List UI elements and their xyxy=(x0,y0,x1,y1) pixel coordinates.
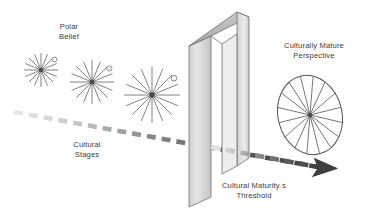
polar-belief-star-3 xyxy=(124,67,180,123)
label-polar-belief: Polar Belief xyxy=(40,22,98,41)
diagram-canvas: Polar Belief Cultural Stages Cultural Ma… xyxy=(0,0,368,218)
cultural-maturity-threshold-doorway xyxy=(189,12,249,207)
label-cultural-stages: Cultural Stages xyxy=(58,140,116,159)
polar-belief-star-2 xyxy=(70,60,114,104)
label-culturally-mature-perspective: Culturally Mature Perspective xyxy=(268,41,360,60)
culturally-mature-perspective-ellipse xyxy=(269,68,350,161)
label-cultural-maturity-threshold: Cultural Maturity s Threshold xyxy=(196,181,312,200)
polar-belief-star-1 xyxy=(24,53,58,87)
